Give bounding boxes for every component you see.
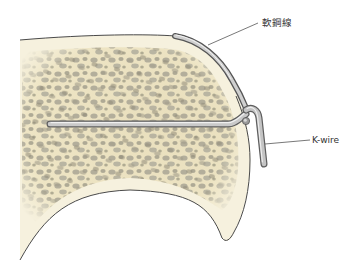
leader-line-soft-wire — [208, 23, 258, 45]
diagram-canvas: 軟鋼線 K-wire — [0, 0, 362, 274]
bone — [0, 0, 362, 274]
label-soft-steel-wire: 軟鋼線 — [262, 18, 292, 28]
leader-line-k-wire — [265, 140, 310, 144]
cancellous-bone — [0, 0, 362, 274]
label-k-wire: K-wire — [312, 136, 339, 145]
